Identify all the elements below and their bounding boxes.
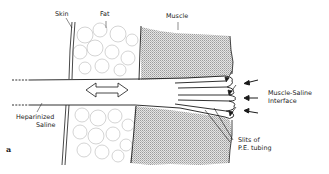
muscle-tissue-bottom xyxy=(130,106,232,165)
arrow-left-icon xyxy=(244,80,258,113)
label-interface-line2: Interface xyxy=(268,98,297,105)
wick-catheter-diagram: Skin Fat Muscle Muscle-Saline Interface … xyxy=(0,0,329,174)
label-skin: Skin xyxy=(55,11,69,18)
panel-label: a xyxy=(6,144,11,154)
label-fat: Fat xyxy=(100,11,110,18)
double-arrow-icon xyxy=(86,83,128,97)
label-muscle: Muscle xyxy=(166,13,188,20)
muscle-tissue-top xyxy=(139,26,233,80)
diagram-drawing xyxy=(0,0,329,174)
label-saline-line2: Saline xyxy=(36,122,56,129)
label-slits-line2: P.E. tubing xyxy=(238,145,271,152)
skin-layer xyxy=(62,22,75,165)
